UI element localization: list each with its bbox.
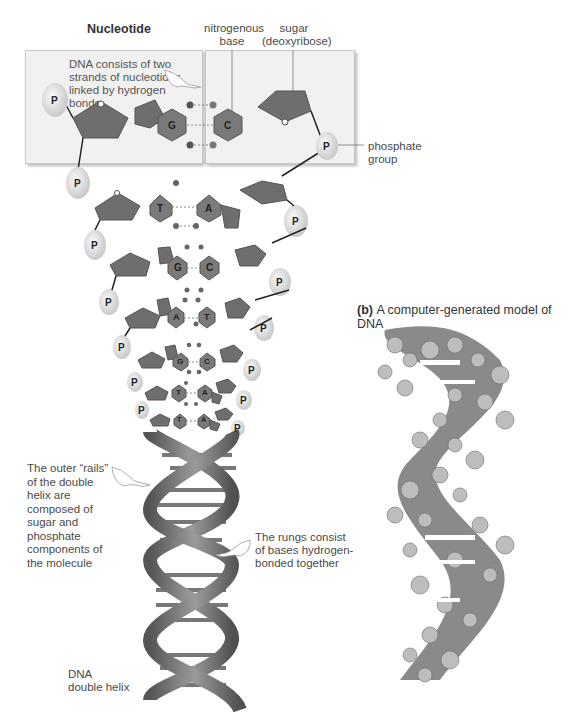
base-letter: A xyxy=(205,203,212,214)
base-letter: G xyxy=(177,357,183,366)
rungs-callout: The rungs consist of bases hydrogen- bon… xyxy=(255,531,353,570)
phosphate-symbol: P xyxy=(138,405,145,416)
base-letter: C xyxy=(204,357,210,366)
base-letter: A xyxy=(173,312,180,322)
base-letter-layer: P P P P P P P P P P P P P P G C T A G C … xyxy=(0,0,579,720)
phosphate-symbol: P xyxy=(118,342,125,353)
phosphate-symbol: P xyxy=(276,277,283,288)
phosphate-symbol: P xyxy=(51,95,58,106)
model-caption-text: A computer-generated model of DNA xyxy=(357,303,552,331)
phosphate-symbol: P xyxy=(248,365,255,376)
phosphate-symbol: P xyxy=(260,323,267,334)
phosphate-symbol: P xyxy=(292,216,299,227)
phosphate-symbol: P xyxy=(74,178,81,189)
model-caption-tag: (b) xyxy=(357,303,373,317)
base-letter: C xyxy=(206,262,213,273)
phosphate-symbol: P xyxy=(131,377,138,388)
base-letter: T xyxy=(176,388,181,397)
phosphate-symbol: P xyxy=(105,297,112,308)
phosphate-symbol: P xyxy=(91,240,98,251)
rails-callout: The outer “rails” of the double helix ar… xyxy=(27,462,108,570)
base-letter: A xyxy=(201,416,206,423)
phosphate-symbol: P xyxy=(234,423,241,434)
model-caption: (b) A computer-generated model of DNA xyxy=(357,303,579,331)
base-letter: T xyxy=(204,312,210,322)
phosphate-symbol: P xyxy=(323,141,330,152)
base-letter: T xyxy=(177,416,181,423)
base-letter: C xyxy=(224,120,231,131)
base-letter: G xyxy=(174,262,182,273)
base-letter: T xyxy=(157,203,163,214)
double-helix-label: DNA double helix xyxy=(68,668,129,694)
base-letter: G xyxy=(168,120,176,131)
base-letter: A xyxy=(202,388,208,397)
phosphate-symbol: P xyxy=(240,395,247,406)
